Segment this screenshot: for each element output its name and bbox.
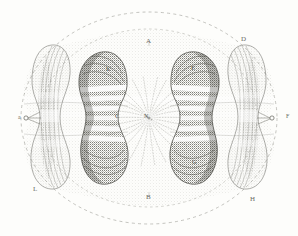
label-a: A <box>146 38 151 45</box>
label-g: G <box>192 159 197 166</box>
label-h: H <box>250 196 255 203</box>
label-d: D <box>241 36 246 43</box>
label-f: F <box>286 113 289 119</box>
label-n-center: N <box>144 113 148 119</box>
label-e: E <box>191 65 195 72</box>
label-k: K <box>106 66 111 73</box>
figure-canvas: A B D E F G H L K C a N Karyokinesis — d… <box>0 0 298 236</box>
label-l: L <box>33 186 37 193</box>
label-b: B <box>146 194 151 201</box>
label-c: C <box>115 113 119 120</box>
label-a-lower: a <box>18 114 21 120</box>
